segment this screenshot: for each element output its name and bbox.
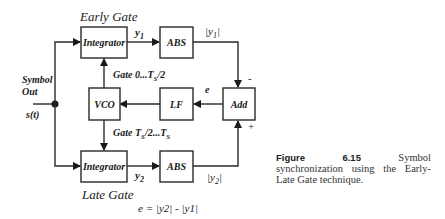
integrator-bottom-label: Integrator (82, 161, 125, 172)
early-gate-title: Early Gate (79, 9, 138, 24)
add-label: Add (230, 99, 249, 110)
e-label: e (205, 84, 210, 95)
figure-label: Figure 6.15 (276, 152, 361, 163)
lf-label: LF (169, 99, 183, 110)
y2-label: y2 (133, 169, 144, 184)
early-gate-timing: Gate 0...TS/2 (113, 69, 165, 83)
vco-label: VCO (94, 99, 115, 110)
y1-label: y1 (133, 26, 144, 41)
abs-bottom-label: ABS (166, 161, 186, 172)
abs-y1-label: |y1| (205, 25, 220, 40)
input-signal-label: s(t) (25, 109, 39, 121)
error-equation: e = |y2| - |y1| (138, 202, 198, 214)
symbol-out-label-2: Out (22, 86, 39, 97)
late-gate-timing: Gate TS/2...TS (113, 127, 170, 141)
abs-top-label: ABS (166, 37, 186, 48)
symbol-out-label: Symbol (22, 74, 53, 85)
plus-sign: + (248, 120, 254, 132)
abs-y2-to-add (193, 121, 238, 166)
figure-caption: Figure 6.15 Symbol synchronization using… (276, 152, 431, 185)
input-to-early-integrator (55, 42, 80, 104)
early-late-gate-diagram: Early Gate Late Gate Symbol Out s(t) Int… (0, 0, 445, 219)
abs-y1-to-add (193, 42, 238, 87)
input-to-late-integrator (55, 104, 80, 166)
integrator-top-label: Integrator (82, 37, 125, 48)
minus-sign: - (248, 72, 252, 84)
abs-y2-label: |y2| (207, 171, 222, 186)
late-gate-title: Late Gate (81, 187, 134, 202)
